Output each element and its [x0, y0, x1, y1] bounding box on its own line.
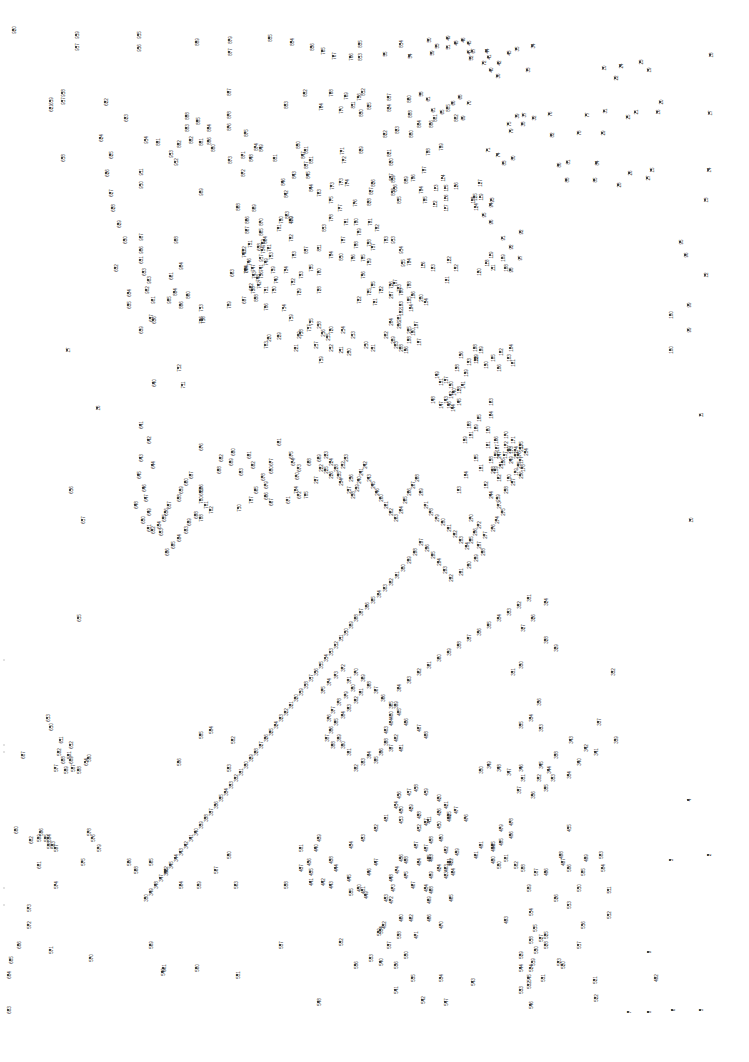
- dot-number-label: 539: [378, 928, 383, 935]
- dot-number-label: 260: [380, 494, 385, 501]
- dot-number-label: 388: [332, 741, 337, 748]
- dot-number-label: 582: [232, 736, 237, 743]
- dot-number-label: 165: [478, 414, 483, 421]
- dot-number-label: 773: [331, 182, 336, 189]
- dot-number-label: 327: [260, 741, 265, 748]
- dot-number-label: 604: [8, 971, 13, 978]
- dot-number-label: 802: [455, 114, 460, 121]
- dot-number-label: 314: [325, 654, 330, 661]
- dot-number-label: 547: [445, 998, 450, 1005]
- dot-number-label: 652: [152, 526, 157, 533]
- dot-number-label: 342: [185, 841, 190, 848]
- dot-number-label: 95: [483, 213, 488, 218]
- dot-number-label: 72: [483, 61, 488, 66]
- dot-number-label: 348: [498, 764, 503, 771]
- dot-number-label: 691: [248, 451, 253, 458]
- dot-number-label: 915: [138, 31, 143, 38]
- dot-number-label: 453: [385, 894, 390, 901]
- dot-number-label: 876: [228, 123, 233, 130]
- dot-number-label: 887: [228, 88, 233, 95]
- dot-number-label: 373: [335, 671, 340, 678]
- dot-number-label: 503: [600, 851, 605, 858]
- dot-number-label: 646: [143, 484, 148, 491]
- dot-number-label: 526: [555, 894, 560, 901]
- dot-number-label: 334: [530, 714, 535, 721]
- dot-number-label: 788: [355, 241, 360, 248]
- dot-number-label: 699: [188, 518, 193, 525]
- dot-number-label: 719: [290, 314, 295, 321]
- dot-number-label: 92: [520, 230, 525, 235]
- dot-number-label: 213: [352, 331, 357, 338]
- dot-number-label: 742: [258, 281, 263, 288]
- dot-number-label: 628: [112, 204, 117, 211]
- dot-number-label: 771: [341, 147, 346, 154]
- dot-number-label: 733: [300, 271, 305, 278]
- dot-number-label: 806: [430, 120, 435, 127]
- dot-number-label: 74: [497, 153, 502, 158]
- dot-number-label: 543: [472, 978, 477, 985]
- dot-number-label: 799: [440, 143, 445, 150]
- dot-number-label: 9: [648, 951, 653, 953]
- dot-number-label: 437: [300, 864, 305, 871]
- dot-number-label: 635: [128, 301, 133, 308]
- dot-number-label: 763: [318, 189, 323, 196]
- dot-number-label: 353: [508, 608, 513, 615]
- dot-number-label: 505: [582, 868, 587, 875]
- dot-number-label: 824: [388, 104, 393, 111]
- dot-number-label: 16: [657, 110, 662, 115]
- dot-number-label: 344: [548, 766, 553, 773]
- dot-number-label: 462: [410, 914, 415, 921]
- dot-number-label: 793: [385, 236, 390, 243]
- dot-number-label: 356: [532, 791, 537, 798]
- dot-number-label: 146: [448, 401, 453, 408]
- dot-number-label: 111: [492, 265, 497, 272]
- dot-number-label: 542: [422, 996, 427, 1003]
- dot-number-label: 132: [475, 356, 480, 363]
- dot-number-label: 914: [145, 136, 150, 143]
- dot-number-label: 215: [327, 333, 332, 340]
- dot-number-label: 66: [452, 101, 457, 106]
- dot-number-label: 418: [415, 784, 420, 791]
- dot-number-label: 366: [382, 694, 387, 701]
- dot-number-label: 265: [404, 496, 409, 503]
- dot-number-label: 907: [140, 233, 145, 240]
- dot-number-label: 811: [318, 244, 323, 251]
- dot-number-label: 828: [368, 198, 373, 205]
- dot-number-label: 20: [660, 100, 665, 105]
- dot-number-label: 329: [250, 754, 255, 761]
- dot-number-label: 455: [428, 854, 433, 861]
- dot-number-label: 917: [62, 97, 67, 104]
- dot-number-label: 630: [124, 236, 129, 243]
- dot-number-label: 879: [229, 36, 234, 43]
- dot-number-label: 2: [708, 854, 713, 856]
- dot-number-label: 219: [298, 331, 303, 338]
- dot-number-label: 296: [426, 544, 431, 551]
- dot-number-label: 518: [530, 936, 535, 943]
- dot-number-label: 26: [629, 171, 634, 176]
- dot-number-label: 381: [360, 688, 365, 695]
- dot-number-label: 484: [418, 858, 423, 865]
- dot-number-label: 488: [405, 856, 410, 863]
- dot-number-label: 641: [140, 421, 145, 428]
- dot-number-label: 465: [450, 894, 455, 901]
- dot-number-label: 704: [295, 486, 300, 493]
- dot-number-label: 377: [332, 706, 337, 713]
- dot-number-label: 399: [395, 701, 400, 708]
- dot-number-label: 679: [265, 481, 270, 488]
- dot-number-label: 519: [532, 958, 537, 965]
- dot-number-label: 913: [170, 150, 175, 157]
- dot-number-label: 509: [528, 884, 533, 891]
- dot-number-label: 781: [345, 218, 350, 225]
- dot-number-label: 397: [390, 744, 395, 751]
- dot-number-label: 14: [708, 168, 713, 173]
- dot-number-label: 721: [374, 298, 379, 305]
- dot-number-label: 320: [295, 694, 300, 701]
- dot-number-label: 36: [497, 74, 502, 79]
- dot-number-label: 814: [400, 40, 405, 47]
- dot-number-label: 117: [445, 204, 450, 211]
- dot-number-label: 500: [498, 861, 503, 868]
- dot-number-label: 324: [545, 598, 550, 605]
- dot-number-label: 441: [310, 878, 315, 885]
- dot-number-label: 38: [522, 122, 527, 127]
- dot-number-label: 168: [468, 421, 473, 428]
